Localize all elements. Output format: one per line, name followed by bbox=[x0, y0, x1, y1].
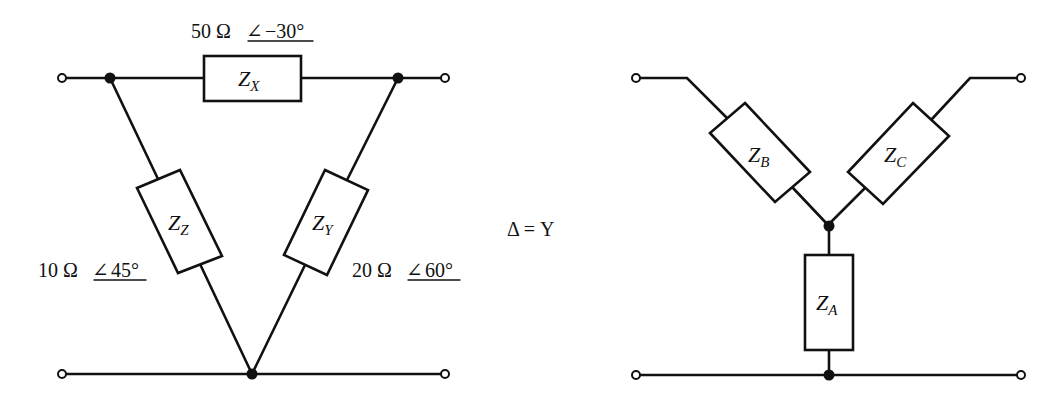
delta-terminal-top-right bbox=[441, 74, 449, 82]
wye-left-wire-upper bbox=[640, 78, 727, 118]
zy-value-label: 20 Ω ∠ 60° bbox=[352, 259, 460, 281]
wye-right-wire-lower bbox=[828, 188, 865, 225]
delta-left-wire-upper bbox=[110, 78, 158, 179]
delta-left-wire-lower bbox=[200, 264, 252, 374]
delta-node-bottom bbox=[247, 369, 258, 380]
delta-terminal-bottom-right bbox=[441, 370, 449, 378]
zz-angle: 45° bbox=[111, 259, 139, 281]
zy-angle: 60° bbox=[425, 259, 453, 281]
delta-terminal-bottom-left bbox=[58, 370, 66, 378]
zy-angle-symbol: ∠ bbox=[406, 259, 423, 281]
wye-terminal-bottom-right bbox=[1017, 371, 1025, 379]
wye-bottom-node bbox=[824, 370, 835, 381]
zy-magnitude: 20 Ω bbox=[352, 259, 392, 281]
delta-node-left bbox=[105, 73, 116, 84]
zx-magnitude: 50 Ω bbox=[191, 20, 231, 42]
zx-angle: −30° bbox=[265, 20, 304, 42]
zz-value-label: 10 Ω ∠ 45° bbox=[38, 259, 146, 281]
zx-angle-symbol: ∠ bbox=[246, 20, 263, 42]
delta-equals-wye-label: Δ = Y bbox=[507, 218, 554, 240]
delta-node-right bbox=[393, 73, 404, 84]
wye-right-wire-upper bbox=[932, 78, 1017, 119]
zz-magnitude: 10 Ω bbox=[38, 259, 78, 281]
delta-terminal-top-left bbox=[58, 74, 66, 82]
delta-right-wire-lower bbox=[252, 265, 305, 374]
wye-terminal-bottom-left bbox=[632, 371, 640, 379]
wye-terminal-top-right bbox=[1017, 74, 1025, 82]
wye-center-node bbox=[824, 221, 835, 232]
delta-network: ZX ZZ ZY 50 Ω ∠ −30° bbox=[38, 20, 460, 380]
wye-left-wire-lower bbox=[793, 188, 828, 225]
delta-wye-circuit-diagram: ZX ZZ ZY 50 Ω ∠ −30° bbox=[0, 0, 1058, 407]
wye-terminal-top-left bbox=[632, 74, 640, 82]
zz-angle-symbol: ∠ bbox=[92, 259, 109, 281]
zx-value-label: 50 Ω ∠ −30° bbox=[191, 20, 313, 42]
delta-right-wire-upper bbox=[347, 78, 398, 180]
wye-network: ZB ZC ZA bbox=[632, 74, 1025, 381]
